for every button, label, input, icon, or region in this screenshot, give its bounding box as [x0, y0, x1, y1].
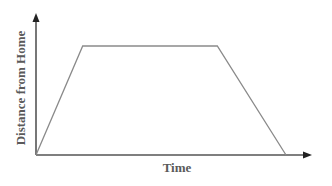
x-axis-label: Time	[163, 160, 192, 175]
series-layer	[36, 46, 286, 155]
distance-time-chart: Time Distance from Home	[0, 0, 332, 186]
y-axis-arrowhead	[33, 13, 40, 22]
axes	[33, 13, 313, 159]
x-axis-arrowhead	[303, 152, 312, 159]
y-axis-label: Distance from Home	[13, 30, 28, 145]
series-line-journey	[36, 46, 286, 155]
